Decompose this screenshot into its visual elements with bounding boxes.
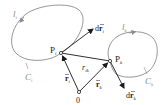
label-r-ik: rik xyxy=(82,63,90,73)
curve-c-i xyxy=(12,5,83,60)
svg-text:ri: ri xyxy=(65,74,71,84)
leader-c-i xyxy=(26,63,28,69)
svg-text:rk: rk xyxy=(96,80,103,90)
vector-dr-k xyxy=(110,61,124,88)
label-dr-i: dri xyxy=(95,24,105,34)
vector-r-ik xyxy=(61,53,110,61)
label-p-i: Pi xyxy=(50,45,57,56)
label-c-i: Ci xyxy=(25,72,33,83)
loop-i xyxy=(12,5,83,69)
label-dr-k: drk xyxy=(126,91,137,101)
two-loop-diagram: li Ci lk Ck Pi Pk 0 rik ri rk dri drk xyxy=(0,0,161,105)
label-l-i: li xyxy=(13,9,18,20)
vector-dr-i xyxy=(61,29,93,53)
label-r-k: rk xyxy=(96,80,103,90)
label-origin: 0 xyxy=(76,96,80,105)
label-p-k: Pk xyxy=(115,54,123,65)
label-l-k: lk xyxy=(122,22,128,33)
label-r-i: ri xyxy=(65,74,71,84)
point-p-i xyxy=(59,51,62,54)
svg-text:dri: dri xyxy=(95,24,105,34)
svg-text:drk: drk xyxy=(126,91,137,101)
point-p-k xyxy=(108,59,111,62)
label-c-k: Ck xyxy=(145,76,154,87)
point-origin xyxy=(77,90,80,93)
